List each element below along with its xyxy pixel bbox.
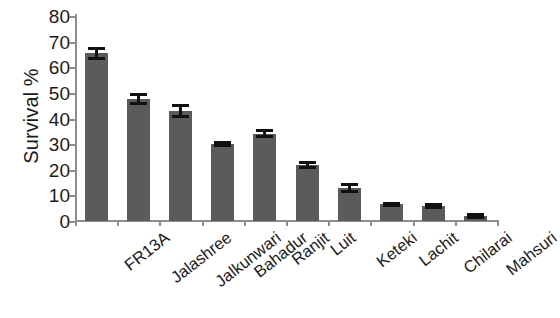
y-tick-mark <box>69 93 75 95</box>
bar <box>169 111 192 221</box>
y-tick-label: 50 <box>26 84 70 103</box>
y-tick-label: 70 <box>26 33 70 52</box>
y-tick-mark <box>69 170 75 172</box>
y-tick-mark <box>69 119 75 121</box>
error-bar-cap-bottom <box>172 115 189 118</box>
y-tick-mark <box>69 67 75 69</box>
x-tick-mark <box>497 220 499 226</box>
error-bar <box>341 183 358 193</box>
x-tick-label: Lachit <box>415 228 461 270</box>
error-bar <box>383 202 400 207</box>
y-tick-mark <box>69 195 75 197</box>
error-bar-cap-top <box>172 104 189 107</box>
bar <box>211 144 234 221</box>
y-tick-mark <box>69 16 75 18</box>
y-tick-label: 10 <box>26 186 70 205</box>
x-tick-mark <box>413 220 415 226</box>
error-bar-cap-top <box>341 183 358 186</box>
error-bar <box>299 161 316 169</box>
error-bar-cap-top <box>214 141 231 144</box>
x-tick-mark <box>455 220 457 226</box>
x-tick-label: Keteki <box>373 228 421 271</box>
bar <box>338 188 361 221</box>
error-bar-cap-bottom <box>256 135 273 138</box>
x-tick-mark <box>244 220 246 226</box>
x-tick-mark <box>159 220 161 226</box>
error-bar <box>172 104 189 118</box>
error-bar-cap-bottom <box>88 57 105 60</box>
x-tick-mark <box>202 220 204 226</box>
y-tick-label: 0 <box>26 212 70 231</box>
x-tick-mark <box>75 220 77 226</box>
error-bar-cap-bottom <box>214 144 231 147</box>
error-bar <box>256 129 273 138</box>
y-tick-label: 60 <box>26 58 70 77</box>
y-axis-tick-labels: 80706050403020100 <box>22 16 70 221</box>
y-tick-label: 20 <box>26 161 70 180</box>
error-bar <box>214 141 231 148</box>
x-tick-label: FR13A <box>121 228 173 275</box>
error-bar-cap-bottom <box>383 204 400 207</box>
x-tick-mark <box>286 220 288 226</box>
error-bar-cap-bottom <box>299 166 316 169</box>
error-bar-cap-bottom <box>425 206 442 209</box>
x-tick-mark <box>328 220 330 226</box>
error-bar <box>130 93 147 105</box>
y-tick-label: 80 <box>26 7 70 26</box>
bar <box>296 165 319 221</box>
bar <box>127 99 150 221</box>
y-tick-label: 40 <box>26 110 70 129</box>
bar <box>253 134 276 221</box>
y-tick-mark <box>69 42 75 44</box>
x-tick-label: Luit <box>327 228 360 259</box>
error-bar-cap-top <box>256 129 273 132</box>
error-bar <box>88 47 105 60</box>
plot-area <box>75 16 497 221</box>
y-tick-label: 30 <box>26 135 70 154</box>
error-bar <box>425 203 442 209</box>
error-bar-cap-top <box>88 47 105 50</box>
bar <box>85 53 108 221</box>
error-bar-cap-top <box>299 161 316 164</box>
error-bar-cap-bottom <box>341 190 358 193</box>
y-tick-mark <box>69 144 75 146</box>
x-tick-mark <box>117 220 119 226</box>
error-bar-cap-bottom <box>467 216 484 219</box>
x-tick-label: Mahsuri <box>502 228 560 279</box>
error-bar <box>467 213 484 219</box>
error-bar-cap-bottom <box>130 102 147 105</box>
x-tick-mark <box>370 220 372 226</box>
error-bar-cap-top <box>130 93 147 96</box>
